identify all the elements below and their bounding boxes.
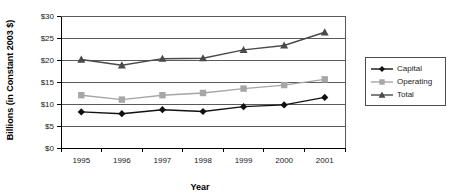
- y-tick-label: $5: [45, 122, 54, 131]
- chart-container: $0$5$10$15$20$25$30 19951996199719981999…: [0, 0, 454, 195]
- line-chart: $0$5$10$15$20$25$30 19951996199719981999…: [0, 0, 454, 195]
- x-tick-label: 1997: [154, 156, 172, 165]
- x-axis-title: Year: [190, 182, 210, 192]
- x-tick-label: 2000: [275, 156, 293, 165]
- y-tick-label: $25: [41, 34, 55, 43]
- data-point: [77, 56, 85, 63]
- data-point: [200, 90, 206, 96]
- x-axis-ticks: 1995199619971998199920002001: [61, 148, 345, 165]
- data-point: [281, 101, 288, 108]
- x-tick-label: 2001: [316, 156, 334, 165]
- y-axis-title: Billions (in Constant 2003 $): [5, 20, 15, 141]
- series-operating: [78, 76, 328, 103]
- data-point: [78, 92, 84, 98]
- legend-item-label: Capital: [397, 64, 422, 73]
- data-point: [321, 28, 329, 35]
- data-point: [119, 96, 125, 102]
- data-point: [78, 108, 85, 115]
- series-capital: [78, 94, 329, 117]
- series-total: [77, 28, 328, 68]
- chart-legend: CapitalOperatingTotal: [365, 57, 445, 105]
- legend-item-label: Total: [397, 90, 414, 99]
- data-point: [118, 110, 125, 117]
- data-point: [199, 108, 206, 115]
- x-tick-label: 1998: [194, 156, 212, 165]
- data-point: [240, 85, 246, 91]
- y-tick-label: $20: [41, 56, 55, 65]
- legend-item-label: Operating: [397, 77, 432, 86]
- data-point: [159, 92, 165, 98]
- x-tick-label: 1999: [235, 156, 253, 165]
- y-tick-label: $0: [45, 144, 54, 153]
- x-tick-label: 1996: [113, 156, 131, 165]
- legend-marker-square-icon: [379, 79, 384, 84]
- y-tick-label: $30: [41, 12, 55, 21]
- y-tick-label: $10: [41, 100, 55, 109]
- data-point: [281, 82, 287, 88]
- y-tick-label: $15: [41, 78, 55, 87]
- data-point: [321, 94, 328, 101]
- data-point: [322, 76, 328, 82]
- y-axis-ticks: $0$5$10$15$20$25$30: [41, 12, 61, 153]
- x-tick-label: 1995: [72, 156, 90, 165]
- data-point: [159, 106, 166, 113]
